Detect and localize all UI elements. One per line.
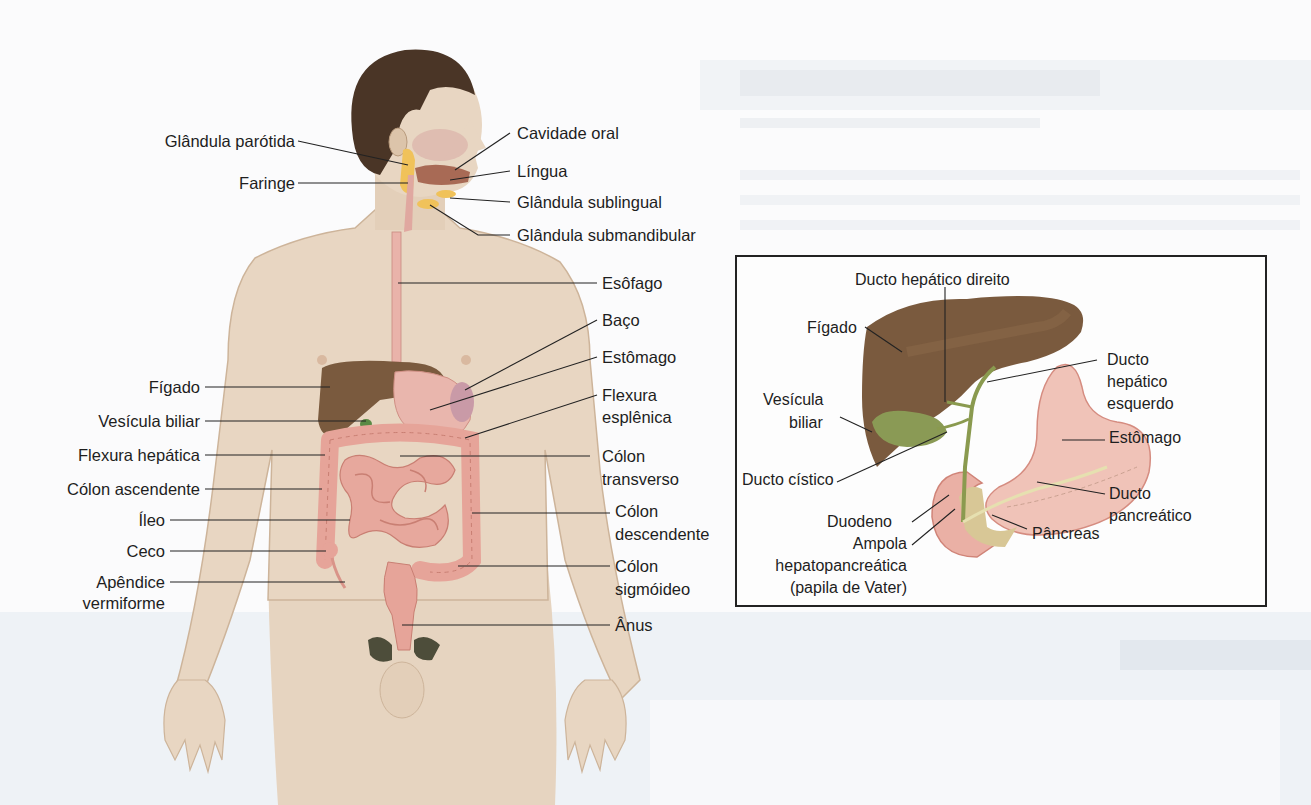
inset-label-figado: Fígado bbox=[807, 317, 857, 338]
label-colon-ascendente: Cólon ascendente bbox=[20, 478, 200, 500]
label-apendice-line1: Apêndice bbox=[40, 571, 165, 593]
label-flexura-esplenica-line2: esplênica bbox=[602, 406, 672, 428]
inset-hepatobiliary-detail: Ducto hepático direito Fígado Ducto hepá… bbox=[735, 255, 1267, 607]
label-estomago: Estômago bbox=[602, 346, 676, 368]
label-faringe: Faringe bbox=[100, 172, 295, 194]
label-vesicula-biliar: Vesícula biliar bbox=[40, 410, 200, 432]
label-colon-sigmoideo-line2: sigmóideo bbox=[615, 578, 690, 600]
label-colon-descendente-line1: Cólon bbox=[615, 500, 658, 522]
label-cavidade-oral: Cavidade oral bbox=[517, 122, 619, 144]
label-flexura-esplenica-line1: Flexura bbox=[602, 384, 657, 406]
label-glandula-sublingual: Glândula sublingual bbox=[517, 191, 662, 213]
inset-label-vesicula-line2: biliar bbox=[789, 412, 823, 433]
inset-label-ducto-hepatico-esquerdo-line2: hepático bbox=[1107, 371, 1168, 392]
label-esofago: Esôfago bbox=[602, 272, 663, 294]
label-anus: Ânus bbox=[615, 614, 653, 636]
inset-label-ducto-cistico: Ducto cístico bbox=[742, 469, 834, 490]
digestive-system-figure: Glândula parótida Faringe Fígado Vesícul… bbox=[0, 0, 1311, 805]
inset-label-ducto-pancreatico-line2: pancreático bbox=[1109, 505, 1192, 526]
label-baco: Baço bbox=[602, 309, 640, 331]
label-lingua: Língua bbox=[517, 160, 567, 182]
inset-label-ampola-line1: Ampola bbox=[737, 533, 907, 554]
label-colon-sigmoideo-line1: Cólon bbox=[615, 555, 658, 577]
label-ileo: Íleo bbox=[40, 509, 165, 531]
label-ceco: Ceco bbox=[40, 540, 165, 562]
inset-label-estomago: Estômago bbox=[1109, 427, 1181, 448]
label-flexura-hepatica: Flexura hepática bbox=[40, 444, 200, 466]
inset-label-ampola-line3: (papila de Vater) bbox=[737, 577, 907, 598]
inset-label-ducto-pancreatico-line1: Ducto bbox=[1109, 483, 1151, 504]
inset-label-ducto-hepatico-esquerdo-line3: esquerdo bbox=[1107, 393, 1174, 414]
label-colon-transverso-line2: transverso bbox=[602, 468, 679, 490]
inset-label-vesicula-line1: Vesícula bbox=[763, 389, 823, 410]
label-colon-descendente-line2: descendente bbox=[615, 523, 710, 545]
inset-label-ampola-line2: hepatopancreática bbox=[737, 555, 907, 576]
label-figado: Fígado bbox=[40, 376, 200, 398]
label-apendice-line2: vermiforme bbox=[40, 592, 165, 614]
label-colon-transverso-line1: Cólon bbox=[602, 445, 645, 467]
inset-label-pancreas: Pâncreas bbox=[1032, 523, 1100, 544]
inset-label-duodeno: Duodeno bbox=[827, 511, 892, 532]
inset-label-ducto-hepatico-direito: Ducto hepático direito bbox=[855, 269, 1010, 290]
inset-label-ducto-hepatico-esquerdo-line1: Ducto bbox=[1107, 349, 1149, 370]
label-glandula-submandibular: Glândula submandibular bbox=[517, 224, 696, 246]
label-glandula-parotida: Glândula parótida bbox=[100, 130, 295, 152]
